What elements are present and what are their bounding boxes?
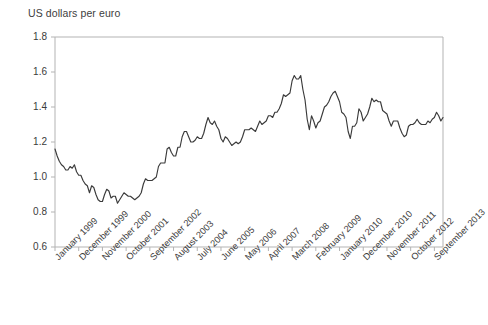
y-tick-label: 0.8 — [17, 206, 47, 217]
exchange-rate-line — [55, 76, 443, 204]
y-tick-label: 1.2 — [17, 136, 47, 147]
y-tick-label: 0.6 — [17, 241, 47, 252]
y-tick-label: 1.8 — [17, 31, 47, 42]
chart-axes — [55, 37, 443, 247]
y-tick-label: 1.4 — [17, 101, 47, 112]
y-tick-label: 1.0 — [17, 171, 47, 182]
y-tick-label: 1.6 — [17, 66, 47, 77]
